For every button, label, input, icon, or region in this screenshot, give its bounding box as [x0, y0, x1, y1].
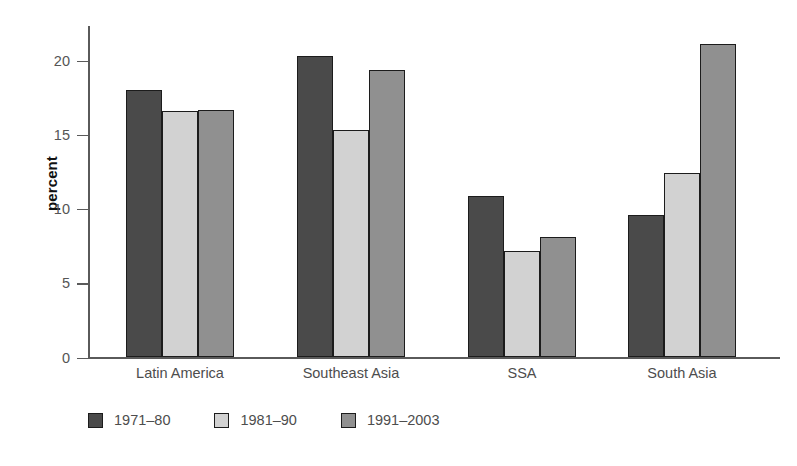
legend-item: 1971–80 — [88, 412, 170, 428]
legend-label: 1981–90 — [240, 412, 296, 428]
bars-layer — [0, 0, 797, 466]
bar — [664, 173, 700, 357]
legend-swatch — [341, 413, 356, 428]
bar — [540, 237, 576, 357]
bar — [162, 111, 198, 357]
legend-label: 1991–2003 — [367, 412, 440, 428]
legend: 1971–801981–901991–2003 — [88, 412, 483, 428]
bar — [628, 215, 664, 357]
bar — [126, 90, 162, 357]
legend-item: 1991–2003 — [341, 412, 440, 428]
x-axis-category-label: Latin America — [86, 365, 274, 381]
bar — [198, 110, 234, 358]
legend-item: 1981–90 — [214, 412, 296, 428]
x-axis-category-label: Southeast Asia — [257, 365, 445, 381]
legend-swatch — [88, 413, 103, 428]
legend-label: 1971–80 — [114, 412, 170, 428]
legend-swatch — [214, 413, 229, 428]
bar — [333, 130, 369, 357]
bar — [297, 56, 333, 357]
bar — [700, 44, 736, 357]
bar-chart: percent 05101520 Latin AmericaSoutheast … — [0, 0, 797, 466]
x-axis-category-label: South Asia — [588, 365, 776, 381]
bar — [369, 70, 405, 358]
bar — [468, 196, 504, 358]
bar — [504, 251, 540, 358]
